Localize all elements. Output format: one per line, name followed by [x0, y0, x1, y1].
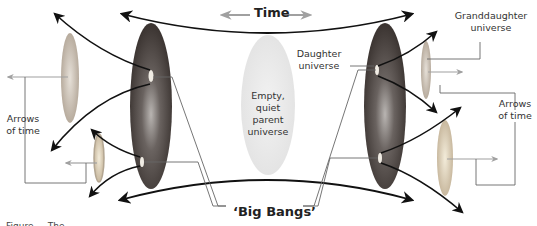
arrows-of-time-label-left: Arrows of time — [0, 113, 46, 137]
time-label: Time — [254, 5, 290, 20]
parent-universe-label: Empty, quiet parent universe — [244, 90, 292, 138]
parent-label-line: parent — [244, 114, 292, 126]
multiverse-diagram: Time Empty, quiet parent universe Daught… — [0, 0, 537, 226]
parent-label-line: universe — [244, 126, 292, 138]
daughter-universe-label: Daughter universe — [289, 48, 349, 72]
bottom-time-arc — [120, 180, 412, 200]
right-granddaughter-universe-top — [421, 41, 431, 99]
arrows-left-line: of time — [0, 125, 46, 137]
daughter-label-line: universe — [289, 60, 349, 72]
granddaughter-label-line: universe — [450, 22, 532, 34]
left-daughter-universe — [130, 23, 172, 189]
left-granddaughter-universe-bottom — [94, 134, 104, 182]
daughter-label-line: Daughter — [289, 48, 349, 60]
arrows-of-time-label-right: Arrows of time — [492, 98, 537, 122]
left-bigbang-spot-upper — [149, 70, 154, 82]
figure-caption-fragment: Figure ... The ... — [6, 218, 536, 226]
big-bangs-label: ‘Big Bangs’ — [233, 204, 316, 219]
parent-label-line: Empty, quiet — [244, 90, 292, 114]
granddaughter-label-line: Granddaughter — [450, 10, 532, 22]
right-bigbang-spot-lower — [378, 153, 382, 163]
right-granddaughter-universe-bottom — [437, 120, 453, 196]
arrows-left-line: Arrows — [0, 113, 46, 125]
left-granddaughter-universe-top — [61, 33, 79, 123]
arrows-right-line: of time — [492, 110, 537, 122]
arrows-right-line: Arrows — [492, 98, 537, 110]
granddaughter-universe-label: Granddaughter universe — [450, 10, 532, 34]
left-bigbang-spot-lower — [140, 157, 144, 167]
